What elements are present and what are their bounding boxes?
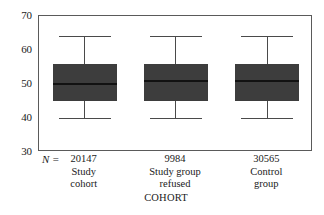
upper-whisker-line [175,36,176,63]
y-tick-label: 40 [21,112,32,123]
boxplot-figure: 3040506070 N = 20147Studycohort9984Study… [0,0,324,215]
median-line [53,83,117,85]
lower-whisker-cap [241,118,293,119]
y-tick-label: 50 [21,78,32,89]
x-category-name-line: group [211,178,321,191]
median-line [235,80,299,82]
x-axis-title: COHORT [0,192,324,204]
y-tick-label: 60 [21,44,32,55]
plot-area [38,15,312,151]
y-tick-label: 70 [21,10,32,21]
upper-whisker-line [267,36,268,63]
lower-whisker-line [267,101,268,118]
lower-whisker-cap [59,118,111,119]
boxplot-group [222,16,313,152]
boxplot-group [130,16,221,152]
x-category-n-value: 30565 [211,153,321,166]
lower-whisker-cap [150,118,202,119]
x-category-name-line: Control [211,166,321,179]
y-axis: 3040506070 [0,0,38,166]
box-rect [144,64,208,101]
x-axis-title-text: COHORT [144,192,188,204]
median-line [144,80,208,82]
upper-whisker-cap [150,36,202,37]
boxplot-group [39,16,130,152]
box-rect [235,64,299,101]
lower-whisker-line [175,101,176,118]
upper-whisker-cap [241,36,293,37]
lower-whisker-line [84,101,85,118]
upper-whisker-cap [59,36,111,37]
upper-whisker-line [84,36,85,63]
x-category-label: 30565Controlgroup [211,153,321,191]
